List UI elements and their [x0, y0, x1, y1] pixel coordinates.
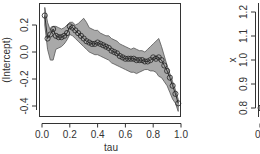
y-tick-label: 1.0 — [238, 53, 249, 67]
x-tick-label: 0.0 — [255, 129, 260, 140]
x-tick-label: 0.0 — [35, 129, 49, 140]
plot-intercept: -0.4-0.20.00.2 0.00.20.40.60.81.0 (Inter… — [1, 4, 188, 154]
x-axis: 0.00.20.40.60.81.0 — [35, 124, 188, 141]
y-tick-label: 0.9 — [238, 77, 249, 91]
plot-x-coefficient: 0.80.91.01.11.2 0.0 x — [227, 3, 260, 140]
y-tick-label: -0.4 — [19, 97, 30, 115]
quantile-regression-figure: -0.4-0.20.00.2 0.00.20.40.60.81.0 (Inter… — [0, 0, 260, 153]
y-axis: 0.80.91.01.11.2 — [238, 5, 256, 115]
y-tick-label: 0.0 — [19, 45, 30, 59]
y-axis-title: (Intercept) — [1, 37, 12, 83]
x-tick-label: 0.6 — [118, 129, 132, 140]
x-tick-label: 0.8 — [146, 129, 160, 140]
y-tick-label: 1.2 — [238, 5, 249, 19]
x-tick-label: 0.4 — [91, 129, 105, 140]
y-tick-label: 0.2 — [19, 18, 30, 32]
y-tick-label: 0.8 — [238, 101, 249, 115]
y-tick-label: 1.1 — [238, 29, 249, 43]
y-tick-label: -0.2 — [19, 70, 30, 88]
x-tick-label: 0.2 — [63, 129, 77, 140]
x-tick-label: 1.0 — [174, 129, 188, 140]
x-axis: 0.0 — [255, 124, 260, 141]
x-axis-title: tau — [104, 142, 118, 153]
y-axis-title: x — [227, 58, 238, 63]
y-axis: -0.4-0.20.00.2 — [19, 18, 37, 115]
